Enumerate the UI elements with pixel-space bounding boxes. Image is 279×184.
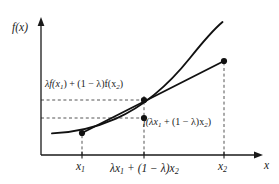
curve-mid: + (1 − λ)x <box>161 116 204 127</box>
curve-tail: ) <box>208 116 211 127</box>
tick-label-x2: x2 <box>218 161 227 173</box>
annotation-chord-value: λf(x1) + (1 − λ)f(x2) <box>45 79 123 89</box>
tick-label-x-midpoint: λx1 + (1 − λ)x2 <box>110 163 179 175</box>
point-x1-on-curve <box>79 130 85 136</box>
dashed-vertical-guides <box>82 59 224 155</box>
figure-canvas <box>0 0 279 184</box>
chord-lead: λf(x <box>45 78 60 89</box>
point-mid-on-chord <box>141 97 147 103</box>
tick-label-x1-sub: 1 <box>81 165 85 174</box>
convexity-figure: f(x) x x1 x2 λx1 + (1 − λ)x2 λf(x1) + (1… <box>0 0 279 184</box>
y-axis-label: f(x) <box>12 22 28 34</box>
x-axis-arrowhead <box>254 152 263 159</box>
tick-label-x2-sub: 2 <box>223 165 227 174</box>
chord-tail: ) <box>120 78 123 89</box>
curve-lead: f(λx <box>143 116 158 127</box>
y-axis <box>38 17 45 155</box>
y-axis-arrowhead <box>38 17 45 26</box>
xmid-sub2: 2 <box>175 167 179 176</box>
xmid-lambda-term: λx <box>110 162 120 174</box>
x-axis <box>41 152 263 159</box>
x-axis-label: x <box>264 160 269 172</box>
tick-label-x1: x1 <box>76 161 85 173</box>
annotation-curve-value: f(λx1 + (1 − λ)x2) <box>143 117 211 127</box>
xmid-operator: + (1 − λ) <box>124 162 169 174</box>
chord-mid: ) + (1 − λ)f(x <box>63 78 116 89</box>
point-x2-on-curve <box>221 58 227 64</box>
